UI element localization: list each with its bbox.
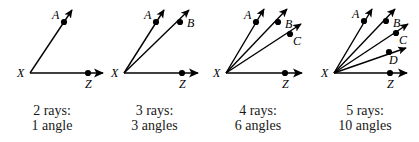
vertex-label-x: X: [212, 66, 221, 80]
caption-ray-count: 3 rays:: [104, 103, 205, 118]
panel-2-diagram: ABZX: [104, 0, 205, 100]
point-label-z: Z: [85, 77, 92, 91]
panel-4-caption: 5 rays:10 angles: [311, 103, 419, 133]
point-a-dot: [361, 18, 367, 24]
rays-and-angles-figure: AZX2 rays:1 angleABZX3 rays:3 anglesABCZ…: [0, 0, 419, 142]
panel-1-diagram: AZX: [0, 0, 104, 100]
caption-angle-count: 10 angles: [311, 118, 419, 133]
vertex-label-x: X: [110, 66, 119, 80]
panel-3: ABCZX4 rays:6 angles: [205, 0, 311, 142]
panel-4-diagram: ABCDZX: [311, 0, 419, 100]
point-z-dot: [282, 70, 288, 76]
caption-ray-count: 2 rays:: [0, 103, 104, 118]
panel-1-caption: 2 rays:1 angle: [0, 103, 104, 133]
point-label-d: D: [388, 53, 398, 67]
point-label-a: A: [351, 7, 360, 21]
point-label-b: B: [393, 16, 401, 30]
caption-ray-count: 5 rays:: [311, 103, 419, 118]
vertex-label-x: X: [320, 66, 329, 80]
point-label-a: A: [243, 8, 252, 22]
vertex-label-x: X: [16, 66, 25, 80]
point-b-dot: [383, 18, 389, 24]
point-b-dot: [177, 19, 183, 25]
point-label-a: A: [51, 8, 60, 22]
point-label-z: Z: [387, 77, 394, 91]
point-a-dot: [61, 19, 67, 25]
ray-b: [226, 9, 287, 73]
point-label-z: Z: [282, 77, 289, 91]
caption-angle-count: 6 angles: [205, 118, 311, 133]
point-z-dot: [387, 70, 393, 76]
point-a-dot: [153, 19, 159, 25]
panel-3-caption: 4 rays:6 angles: [205, 103, 311, 133]
panel-1: AZX2 rays:1 angle: [0, 0, 104, 142]
point-label-b: B: [187, 16, 195, 30]
panel-3-diagram: ABCZX: [205, 0, 311, 100]
point-label-z: Z: [179, 77, 186, 91]
point-b-dot: [275, 19, 281, 25]
point-label-c: C: [293, 34, 302, 48]
point-a-dot: [253, 19, 259, 25]
point-label-c: C: [399, 33, 408, 47]
caption-angle-count: 1 angle: [0, 118, 104, 133]
caption-angle-count: 3 angles: [104, 118, 205, 133]
point-label-b: B: [285, 17, 293, 31]
point-label-a: A: [143, 8, 152, 22]
caption-ray-count: 4 rays:: [205, 103, 311, 118]
panel-2: ABZX3 rays:3 angles: [104, 0, 205, 142]
point-z-dot: [85, 70, 91, 76]
panel-2-caption: 3 rays:3 angles: [104, 103, 205, 133]
panel-4: ABCDZX5 rays:10 angles: [311, 0, 419, 142]
point-z-dot: [179, 70, 185, 76]
